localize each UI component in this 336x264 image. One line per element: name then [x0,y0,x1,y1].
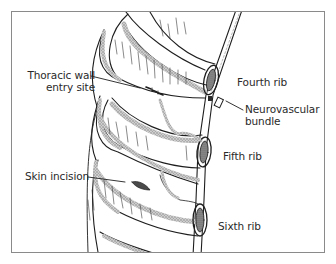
neurovascular-bundle-marker [208,96,223,108]
label-neuro-line2: bundle [245,115,319,127]
rib-cage-illustration [0,0,336,264]
fourth-rib-oval [201,64,221,96]
label-sixth-rib: Sixth rib [218,220,261,232]
intercostal-window [160,100,200,204]
skin-incision-mark [132,181,150,190]
label-thoracic-line2: entry site [15,81,95,93]
leader-lines [88,76,243,182]
label-thoracic-line1: Thoracic wall [15,69,95,81]
label-skin-incision: Skin incision [25,170,89,182]
label-fourth-rib: Fourth rib [237,76,287,88]
label-fifth-rib: Fifth rib [223,150,262,162]
label-neuro-line1: Neurovascular [245,103,319,115]
label-neurovascular-bundle: Neurovascular bundle [245,103,319,127]
entry-site-marks [146,87,163,95]
upper-rib [126,12,215,70]
label-thoracic-wall-entry-site: Thoracic wall entry site [15,69,95,93]
